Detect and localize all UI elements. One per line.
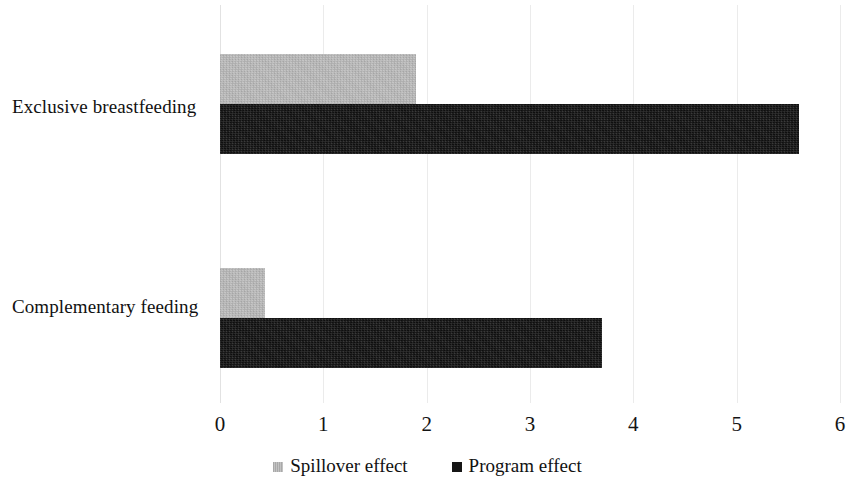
x-tick-label-5: 5 (731, 412, 742, 436)
bar-spillover-effect-complementary-feeding (220, 268, 265, 318)
bar-chart: Exclusive breastfeeding Complementary fe… (0, 0, 855, 482)
gridline-4 (633, 5, 634, 403)
legend-label-program: Program effect (469, 455, 582, 477)
x-tick-label-3: 3 (525, 412, 536, 436)
legend-label-spillover: Spillover effect (290, 455, 407, 477)
plot-area (220, 5, 840, 403)
legend-swatch-icon-spillover (273, 462, 283, 472)
x-tick-label-2: 2 (421, 412, 432, 436)
gridline-5 (737, 5, 738, 403)
bar-program-effect-exclusive-breastfeeding (220, 104, 799, 154)
category-label-complementary-feeding: Complementary feeding (6, 296, 218, 318)
legend-item-spillover-effect[interactable]: Spillover effect (273, 455, 407, 477)
x-tick-label-1: 1 (318, 412, 329, 436)
legend-swatch-icon-program (452, 462, 462, 472)
x-axis: 0123456 (220, 404, 840, 438)
gridline-6 (840, 5, 841, 403)
category-label-exclusive-breastfeeding: Exclusive breastfeeding (6, 96, 218, 118)
chart-legend: Spillover effect Program effect (0, 452, 855, 480)
x-tick-label-4: 4 (628, 412, 639, 436)
x-tick-label-0: 0 (215, 412, 226, 436)
category-label-column: Exclusive breastfeeding Complementary fe… (0, 0, 218, 400)
bar-spillover-effect-exclusive-breastfeeding (220, 54, 416, 104)
bar-program-effect-complementary-feeding (220, 318, 602, 368)
x-tick-label-6: 6 (835, 412, 846, 436)
legend-item-program-effect[interactable]: Program effect (452, 455, 582, 477)
